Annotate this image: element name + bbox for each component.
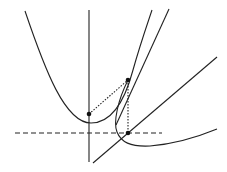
axis-point [87,112,92,117]
tangent-point [126,78,131,83]
intersection-point [126,131,131,136]
diagonal-line [93,57,217,163]
tangent-line [116,9,169,125]
second-curve [116,80,217,146]
diagram-figure [0,0,227,172]
dotted-connector-slant [89,80,128,114]
